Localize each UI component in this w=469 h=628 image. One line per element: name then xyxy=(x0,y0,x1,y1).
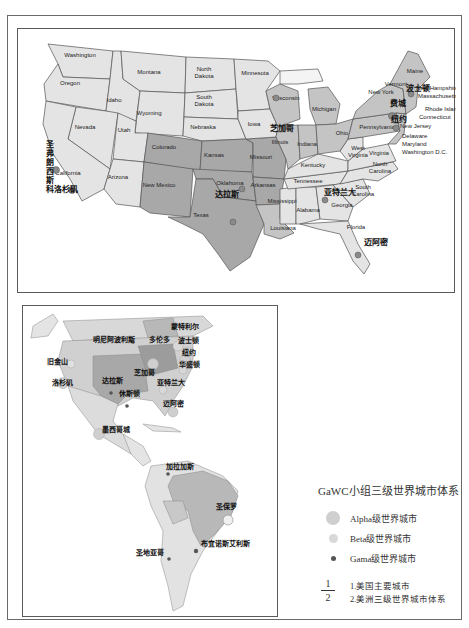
city-label: 华盛顿 xyxy=(179,360,200,369)
legend-label-beta: Beta级世界城市 xyxy=(350,532,412,545)
beta-city-symbol-icon xyxy=(329,534,338,543)
state-label: Michigan xyxy=(312,106,336,112)
legend-label-alpha: Alpha级世界城市 xyxy=(350,512,417,525)
city-label-vertical: 科 xyxy=(46,184,54,194)
state-callout-label: Washington D.C. xyxy=(402,149,447,155)
panel-key: 1 2 1.美国主要城市 2.美洲三级世界城市体系 xyxy=(320,578,465,606)
city-label-vertical: 朗 xyxy=(46,157,54,167)
city-label: 休斯顿 xyxy=(118,389,140,398)
city-label: 芝加哥 xyxy=(134,368,155,377)
city-label: 波士顿 xyxy=(406,83,430,93)
city-label: 芝加哥 xyxy=(270,123,294,133)
legend-item-beta: Beta级世界城市 xyxy=(300,528,465,548)
state-label: Dakota xyxy=(194,101,214,107)
state-callout-label: Massachusetts xyxy=(418,93,456,99)
state-label: Georgia xyxy=(331,202,353,208)
state-label: Minnesota xyxy=(241,70,269,76)
panel-note-2: 2.美洲三级世界城市体系 xyxy=(350,593,446,606)
state-mississippi xyxy=(280,187,296,224)
city-label: 圣地亚哥 xyxy=(135,548,164,557)
legend-label-gama: Gama级世界城市 xyxy=(350,552,417,565)
us-map-svg: WashingtonOregonIdahoMontanaWyomingNorth… xyxy=(18,29,456,294)
city-label: 洛杉矶 xyxy=(52,378,73,387)
state-label: Virginia xyxy=(348,152,369,158)
state-label: Vermont xyxy=(385,81,408,87)
state-label: Iowa xyxy=(248,121,261,127)
state-label: Missouri xyxy=(250,154,272,160)
state-callout-label: Rhode Island xyxy=(425,106,456,112)
state-label: Illinois xyxy=(272,139,289,145)
city-label: 洛杉矶 xyxy=(54,184,78,194)
state-new-mexico xyxy=(140,162,193,217)
state-label: New York xyxy=(368,89,394,95)
state-label: North xyxy=(373,161,388,167)
state-label: New Mexico xyxy=(143,182,176,188)
alaska-shape xyxy=(31,314,58,338)
state-label: Montana xyxy=(137,69,161,75)
state-label: Virginia xyxy=(369,150,390,156)
city-label-vertical: 弗 xyxy=(46,148,54,158)
city-label: 亚特兰大 xyxy=(157,378,185,387)
city-label: 达拉斯 xyxy=(102,376,123,385)
state-label: Pennsylvania xyxy=(359,124,395,130)
state-label: Utah xyxy=(118,127,131,133)
state-label: Dakota xyxy=(194,73,214,79)
state-label: Nebraska xyxy=(190,124,216,130)
state-label: Carolina xyxy=(369,168,392,174)
city-label: 墨西哥城 xyxy=(102,425,130,434)
state-label: Florida xyxy=(347,224,366,230)
state-label: Kentucky xyxy=(301,162,326,168)
americas-map-svg: 旧金山明尼阿波利斯多伦多蒙特利尔波士顿纽约华盛顿芝加哥洛杉矶达拉斯休斯顿亚特兰大… xyxy=(23,306,279,618)
city-label-vertical: 斯 xyxy=(46,175,54,185)
state-label: Alabama xyxy=(296,207,320,213)
city-label: 圣保罗 xyxy=(215,502,237,511)
state-label: Indiana xyxy=(297,141,317,147)
alpha-city-symbol-icon xyxy=(326,511,340,525)
legend-item-gama: Gama级世界城市 xyxy=(300,548,465,568)
city-label: 达拉斯 xyxy=(215,189,239,199)
state-label: Arkansas xyxy=(250,182,275,188)
state-label: South xyxy=(355,184,371,190)
city-label: 加拉加斯 xyxy=(165,462,194,471)
city-label: 多伦多 xyxy=(149,335,170,344)
state-label: Oklahoma xyxy=(216,180,244,186)
state-callout-label: Maryland xyxy=(402,141,427,147)
legend-title: GaWC小组三级世界城市体系 xyxy=(318,482,465,498)
city-label: 布宜诺斯艾利斯 xyxy=(201,539,250,548)
state-label: Louisiana xyxy=(270,225,296,231)
city-label: 纽约 xyxy=(391,114,407,124)
state-label: Maine xyxy=(407,68,424,74)
fraction-top: 1 xyxy=(326,578,331,589)
panel-note-1: 1.美国主要城市 xyxy=(350,580,446,593)
state-label: Ohio xyxy=(336,130,349,136)
city-label-vertical: 西 xyxy=(46,167,54,176)
city-label: 迈阿密 xyxy=(163,399,184,408)
gama-city-symbol-icon xyxy=(331,556,336,561)
caribbean-shape xyxy=(143,424,181,432)
state-callout-label: Delaware xyxy=(402,133,428,139)
fraction-bottom: 2 xyxy=(326,592,331,603)
state-label: Tennessee xyxy=(293,178,323,184)
state-label: Oregon xyxy=(60,80,80,86)
state-label: Nevada xyxy=(75,124,96,130)
state-label: North xyxy=(197,66,212,72)
state-label: Texas xyxy=(193,212,209,218)
panel-notes: 1.美国主要城市 2.美洲三级世界城市体系 xyxy=(350,580,446,606)
city-label: 纽约 xyxy=(182,348,196,357)
city-label: 明尼阿波利斯 xyxy=(93,335,135,344)
americas-map-panel: 旧金山明尼阿波利斯多伦多蒙特利尔波士顿纽约华盛顿芝加哥洛杉矶达拉斯休斯顿亚特兰大… xyxy=(22,305,278,617)
panel-fraction: 1 2 xyxy=(320,578,336,603)
lake-superior xyxy=(280,69,323,84)
city-label-vertical: 圣 xyxy=(45,140,55,149)
city-label: 费城 xyxy=(390,98,406,108)
legend-item-alpha: Alpha级世界城市 xyxy=(300,508,465,528)
state-callout-label: Connecticut xyxy=(419,114,451,120)
state-label: Arizona xyxy=(108,174,129,180)
city-label: 蒙特利尔 xyxy=(171,322,199,331)
city-label: 迈阿密 xyxy=(364,237,388,247)
state-label: Washington xyxy=(64,52,95,58)
state-label: Mississippi xyxy=(267,198,296,204)
state-label: Wyoming xyxy=(137,110,162,116)
city-label: 波士顿 xyxy=(178,336,199,345)
state-label: South xyxy=(196,94,212,100)
